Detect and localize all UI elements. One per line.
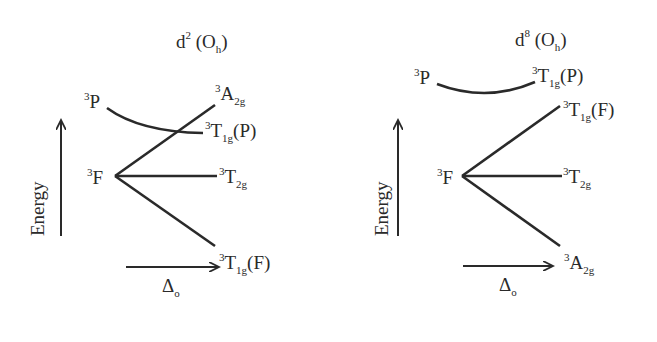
term-3T2g: 3T2g xyxy=(563,167,591,186)
d8-title: d8 (Oh) xyxy=(515,30,567,49)
f-to-t1gf-line xyxy=(462,106,560,176)
term-3T1gF: 3T1g(F) xyxy=(563,100,614,119)
p-to-t1gp-curve xyxy=(437,82,535,93)
term-3A2g: 3A2g xyxy=(564,253,594,272)
energy-axis-label: Energy xyxy=(371,181,393,236)
term-3P: 3P xyxy=(414,68,430,87)
term-3F: 3F xyxy=(437,168,453,187)
term-3T1gP: 3T1g(P) xyxy=(532,66,583,85)
delta-axis-label: Δo xyxy=(499,275,517,294)
f-to-a2g-line xyxy=(462,176,560,246)
d8-diagram: d8 (Oh) Energy Δo 3P 3F 3T1g(P) 3T1g(F) … xyxy=(0,0,657,342)
